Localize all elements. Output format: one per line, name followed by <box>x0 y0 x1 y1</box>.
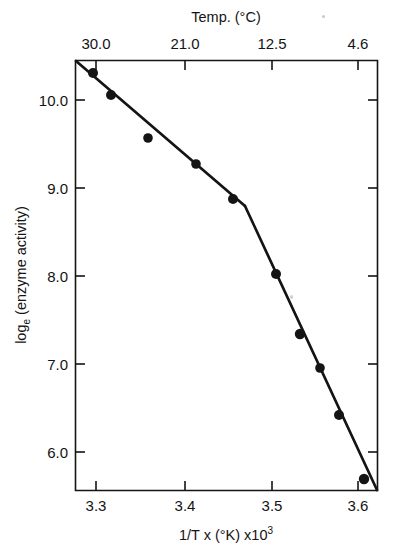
y-axis-title-suffix: (enzyme activity) <box>13 206 29 319</box>
x-axis-title: 1/T x (°K) x103 <box>179 525 274 543</box>
x-axis-tick-label: 3.3 <box>86 497 107 514</box>
data-point <box>334 410 344 420</box>
x-axis-title-exponent: 3 <box>267 525 273 536</box>
y-axis-title: loge (enzyme activity) <box>13 206 32 344</box>
data-points <box>88 68 369 484</box>
top-axis-tick-label: 30.0 <box>81 35 110 52</box>
x-axis-tick-label: 3.4 <box>175 497 196 514</box>
fitted-line <box>76 61 377 490</box>
left-axis-ticks <box>76 100 86 452</box>
fitted-line-upper-segment <box>76 61 245 206</box>
x-axis-tick-label: 3.5 <box>262 497 283 514</box>
fitted-line-lower-segment <box>245 206 377 490</box>
plot-frame <box>76 61 378 491</box>
plot-canvas: Temp. (°C) 30.0 21.0 12.5 4.6 <box>0 0 396 549</box>
data-point <box>228 194 238 204</box>
data-point <box>143 133 153 143</box>
top-axis-title: Temp. (°C) <box>191 9 260 25</box>
data-point <box>295 329 305 339</box>
top-axis-tick-label: 4.6 <box>348 35 369 52</box>
y-axis-tick-label: 9.0 <box>47 180 68 197</box>
bottom-axis-ticks <box>96 481 358 491</box>
data-point <box>106 90 116 100</box>
data-point <box>88 68 98 78</box>
y-axis-tick-label: 7.0 <box>47 356 68 373</box>
data-point <box>359 474 369 484</box>
data-point <box>191 159 201 169</box>
svg-text:loge (enzyme activity): loge (enzyme activity) <box>13 206 32 344</box>
top-axis-ticks <box>96 61 358 71</box>
top-axis-tick-label: 12.5 <box>257 35 286 52</box>
arrhenius-plot-figure: Temp. (°C) 30.0 21.0 12.5 4.6 <box>0 0 396 549</box>
y-axis-title-main: log <box>13 325 29 344</box>
x-axis-tick-label: 3.6 <box>348 497 369 514</box>
top-axis-tick-label: 21.0 <box>170 35 199 52</box>
right-axis-ticks <box>368 100 378 452</box>
data-point <box>315 363 325 373</box>
data-point <box>271 269 281 279</box>
y-axis-tick-label: 8.0 <box>47 268 68 285</box>
x-axis-title-part: 1/T x (°K) x10 <box>179 527 268 543</box>
y-axis-tick-label: 10.0 <box>39 92 68 109</box>
y-axis-tick-label: 6.0 <box>47 444 68 461</box>
svg-text:1/T x (°K) x103: 1/T x (°K) x103 <box>179 525 274 543</box>
